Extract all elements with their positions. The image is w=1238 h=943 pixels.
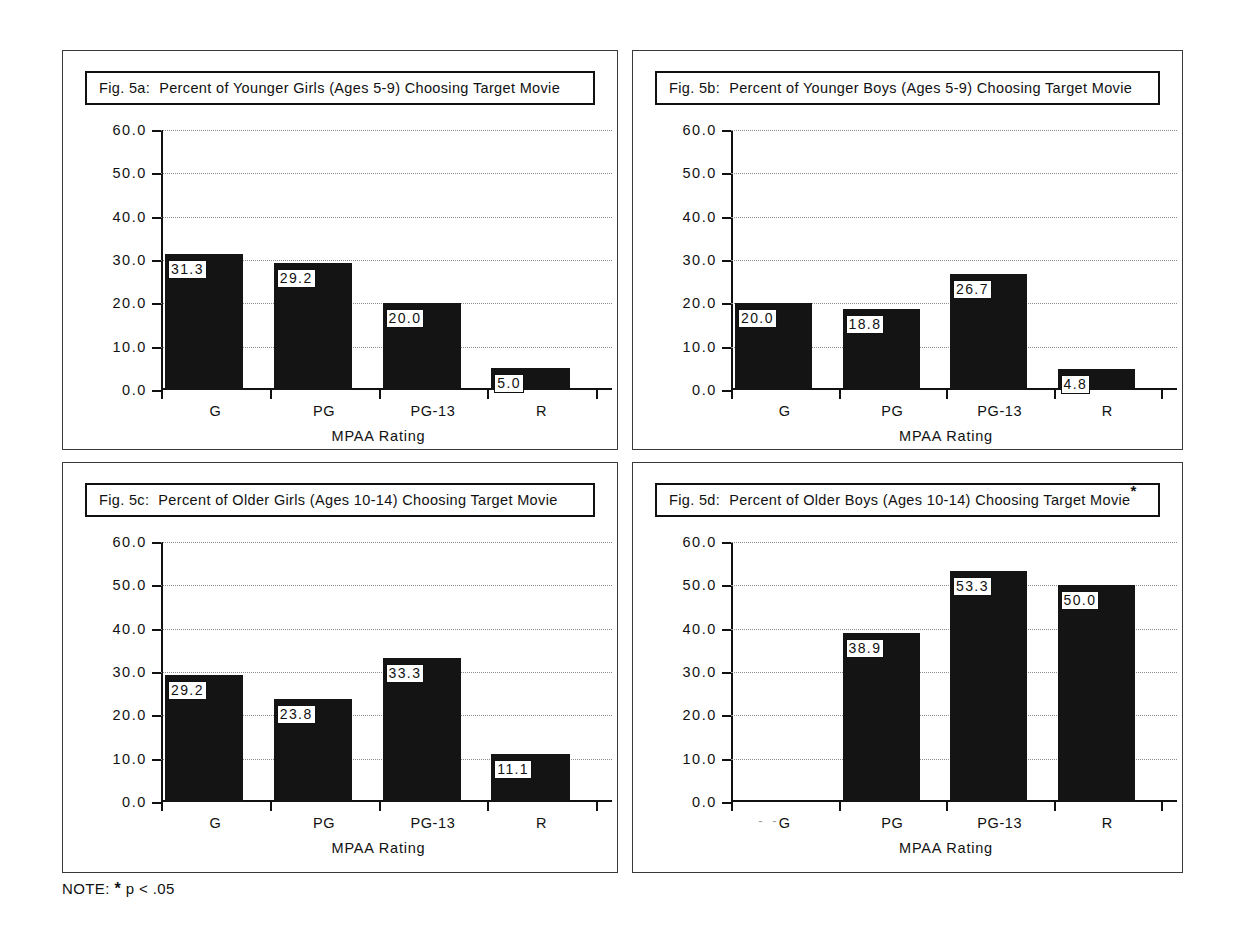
- figure-note: NOTE: * p < .05: [62, 880, 175, 898]
- y-tick-a-40: [152, 217, 161, 219]
- note-label: NOTE:: [62, 880, 110, 897]
- bar-b-G: 20.0: [735, 303, 812, 390]
- y-axis-label-a-60: 60.0: [112, 122, 147, 138]
- x-axis-label-a-PG-13: PG-13: [410, 403, 455, 419]
- panel-title-box-5a: Fig. 5a:Percent of Younger Girls (Ages 5…: [85, 71, 595, 105]
- x-axis-label-c-R: R: [536, 815, 547, 831]
- y-tick-a-20: [152, 303, 161, 305]
- bar-c-PG-13: 33.3: [383, 658, 461, 802]
- y-tick-a-60: [152, 130, 161, 132]
- panel-title-box-5c: Fig. 5c:Percent of Older Girls (Ages 10-…: [85, 483, 595, 517]
- bar-a-PG: 29.2: [274, 263, 352, 390]
- gridline-a-50: [161, 173, 612, 174]
- bar-value-label-a-PG: 29.2: [277, 269, 316, 288]
- x-tick-d-end: [1161, 802, 1163, 811]
- y-axis-label-a-20: 20.0: [112, 295, 147, 311]
- plot-area-5c: 0.010.020.030.040.050.060.029.2G23.8PG33…: [161, 542, 596, 802]
- y-tick-c-20: [152, 715, 161, 717]
- bar-a-G: 31.3: [165, 254, 243, 390]
- bar-value-label-a-R: 5.0: [494, 374, 524, 393]
- x-axis-label-b-PG: PG: [881, 403, 903, 419]
- y-tick-b-30: [722, 260, 731, 262]
- bar-c-R: 11.1: [491, 754, 569, 802]
- plot-area-5d: 0.010.020.030.040.050.060.0- -G38.9PG53.…: [731, 542, 1161, 802]
- y-tick-d-20: [722, 715, 731, 717]
- y-axis-label-c-30: 30.0: [112, 664, 147, 680]
- x-tick-c-2: [379, 802, 381, 811]
- bar-c-G: 29.2: [165, 675, 243, 802]
- y-axis-label-b-30: 30.0: [682, 252, 717, 268]
- y-axis-label-a-50: 50.0: [112, 165, 147, 181]
- bar-d-R: 50.0: [1058, 585, 1135, 802]
- bar-value-label-b-PG-13: 26.7: [953, 280, 992, 299]
- panel-fig-5a: Fig. 5a:Percent of Younger Girls (Ages 5…: [62, 50, 618, 450]
- panel-fignum-5d: Fig. 5d:: [669, 492, 720, 508]
- bar-value-label-c-R: 11.1: [494, 760, 532, 779]
- gridline-b-60: [731, 130, 1177, 131]
- bar-a-PG-13: 20.0: [383, 303, 461, 390]
- ghost-dashes-d: - -: [758, 813, 779, 828]
- y-tick-a-0: [152, 390, 161, 392]
- y-tick-a-50: [152, 173, 161, 175]
- x-axis-label-b-PG-13: PG-13: [977, 403, 1022, 419]
- y-tick-d-40: [722, 629, 731, 631]
- x-axis-label-b-R: R: [1102, 403, 1113, 419]
- y-axis-label-c-50: 50.0: [112, 577, 147, 593]
- x-axis-label-a-PG: PG: [313, 403, 335, 419]
- y-tick-a-30: [152, 260, 161, 262]
- panel-fignum-5c: Fig. 5c:: [99, 492, 149, 508]
- bar-value-label-c-PG-13: 33.3: [386, 664, 425, 683]
- y-axis-label-b-0: 0.0: [692, 382, 717, 398]
- bar-value-label-d-R: 50.0: [1061, 591, 1100, 610]
- gridline-b-50: [731, 173, 1177, 174]
- x-axis-title-a: MPAA Rating: [332, 428, 426, 444]
- note-asterisk: *: [114, 880, 121, 897]
- x-tick-d-3: [1054, 802, 1056, 811]
- bar-b-PG: 18.8: [843, 309, 920, 390]
- x-axis-title-c: MPAA Rating: [332, 840, 426, 856]
- bar-b-R: 4.8: [1058, 369, 1135, 390]
- bar-value-label-c-G: 29.2: [168, 681, 207, 700]
- bar-value-label-a-PG-13: 20.0: [386, 309, 425, 328]
- x-axis-label-a-G: G: [209, 403, 221, 419]
- x-tick-b-2: [946, 390, 948, 399]
- panel-title-text-5d: Percent of Older Boys (Ages 10-14) Choos…: [729, 492, 1130, 508]
- y-tick-a-10: [152, 347, 161, 349]
- x-axis-title-d: MPAA Rating: [899, 840, 993, 856]
- y-axis-label-b-20: 20.0: [682, 295, 717, 311]
- x-tick-d-1: [839, 802, 841, 811]
- bar-value-label-b-G: 20.0: [738, 309, 777, 328]
- gridline-a-60: [161, 130, 612, 131]
- chart-5a: 0.010.020.030.040.050.060.031.3G29.2PG20…: [63, 117, 617, 447]
- bar-b-PG-13: 26.7: [950, 274, 1027, 390]
- y-axis-label-d-40: 40.0: [682, 621, 717, 637]
- panel-fig-5c: Fig. 5c:Percent of Older Girls (Ages 10-…: [62, 462, 618, 873]
- x-axis-label-c-PG-13: PG-13: [410, 815, 455, 831]
- y-tick-d-50: [722, 585, 731, 587]
- bar-d-PG-13: 53.3: [950, 571, 1027, 802]
- y-axis-label-c-10: 10.0: [112, 751, 147, 767]
- y-axis-label-b-60: 60.0: [682, 122, 717, 138]
- y-tick-c-30: [152, 672, 161, 674]
- bar-c-PG: 23.8: [274, 699, 352, 802]
- bar-d-PG: 38.9: [843, 633, 920, 802]
- figure-sheet: Fig. 5a:Percent of Younger Girls (Ages 5…: [0, 0, 1238, 943]
- panel-title-box-5d: Fig. 5d:Percent of Older Boys (Ages 10-1…: [655, 483, 1160, 517]
- y-axis-label-b-10: 10.0: [682, 339, 717, 355]
- x-tick-a-2: [379, 390, 381, 399]
- chart-5d: 0.010.020.030.040.050.060.0- -G38.9PG53.…: [633, 529, 1182, 859]
- y-axis-label-d-0: 0.0: [692, 794, 717, 810]
- y-axis-label-d-60: 60.0: [682, 534, 717, 550]
- x-axis-label-d-PG-13: PG-13: [977, 815, 1022, 831]
- x-tick-c-1: [270, 802, 272, 811]
- y-axis-label-d-30: 30.0: [682, 664, 717, 680]
- gridline-c-40: [161, 629, 612, 630]
- y-tick-b-0: [722, 390, 731, 392]
- y-axis-label-d-50: 50.0: [682, 577, 717, 593]
- gridline-b-30: [731, 260, 1177, 261]
- y-tick-b-40: [722, 217, 731, 219]
- y-tick-c-50: [152, 585, 161, 587]
- x-tick-a-1: [270, 390, 272, 399]
- y-tick-b-10: [722, 347, 731, 349]
- bar-value-label-b-R: 4.8: [1061, 375, 1091, 394]
